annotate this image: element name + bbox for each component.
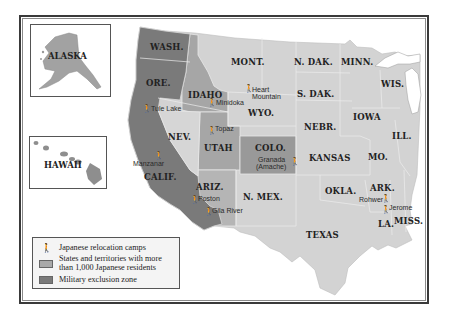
state-label: COLO. — [255, 143, 286, 153]
camp-label: Tule Lake — [151, 105, 182, 112]
camp-label: Rohwer — [359, 196, 384, 203]
alaska-label: ALASKA — [48, 51, 87, 61]
camp-label: Topaz — [215, 125, 234, 133]
state-label: NEV. — [168, 132, 191, 142]
swatch-exclusion-icon — [39, 276, 53, 284]
state-label: MINN. — [341, 57, 373, 67]
state-label: CALIF. — [144, 172, 177, 182]
state-label: IOWA — [353, 112, 381, 122]
camp-label-line2: Mountain — [252, 93, 281, 100]
camp-minidoka[interactable]: 🚶 Minidoka — [207, 97, 244, 107]
map-legend: 🚶 Japanese relocation camps States and t… — [32, 237, 180, 289]
state-label: UTAH — [204, 143, 233, 153]
swatch-residents-icon — [39, 260, 53, 268]
state-label: ORE. — [146, 78, 171, 88]
camp-icon: 🚶 — [154, 150, 164, 160]
legend-item-residents: States and territories with more than 1,… — [39, 255, 162, 272]
state-label: LA. — [378, 219, 394, 229]
camp-label: Manzanar — [133, 160, 165, 167]
camp-icon: 🚶 — [290, 156, 300, 166]
state-label: N. DAK. — [294, 57, 333, 67]
camp-label: Heart — [252, 86, 269, 93]
legend-label-line2: than 1,000 Japanese residents — [59, 263, 156, 272]
legend-item-camps: 🚶 Japanese relocation camps — [39, 243, 146, 253]
state-label: ARIZ. — [195, 182, 224, 192]
state-label: ARK. — [369, 183, 395, 193]
camp-label: Jerome — [389, 204, 412, 211]
camp-label: Minidoka — [216, 99, 244, 106]
camp-label: Poston — [198, 195, 220, 202]
camp-label: Granada — [258, 156, 285, 163]
legend-label: Japanese relocation camps — [59, 244, 146, 253]
state-label: MO. — [368, 152, 388, 162]
hawaii-label: HAWAII — [44, 160, 82, 170]
state-label: WIS. — [380, 79, 404, 89]
camp-label: Gila River — [212, 207, 243, 214]
legend-item-exclusion: Military exclusion zone — [39, 276, 137, 285]
state-label: MISS. — [394, 216, 423, 226]
state-label: S. DAK. — [297, 89, 334, 99]
legend-label: Military exclusion zone — [59, 276, 137, 285]
state-label: N. MEX. — [243, 192, 283, 202]
camp-label-line2: (Amache) — [256, 163, 286, 171]
state-label: WYO. — [247, 108, 274, 118]
camp-icon: 🚶 — [39, 243, 53, 253]
state-label: MONT. — [231, 57, 265, 67]
state-label: TEXAS — [306, 230, 339, 240]
hawaii-inset: HAWAII — [29, 136, 107, 189]
camp-tule-lake[interactable]: 🚶 Tule Lake — [142, 103, 182, 113]
state-label: ILL. — [392, 131, 412, 141]
state-label: WASH. — [149, 42, 184, 52]
state-label: KANSAS — [309, 153, 350, 163]
state-label: OKLA. — [325, 186, 356, 196]
state-label: NEBR. — [304, 122, 336, 132]
alaska-inset: ALASKA — [30, 24, 111, 97]
